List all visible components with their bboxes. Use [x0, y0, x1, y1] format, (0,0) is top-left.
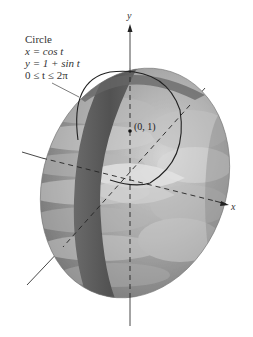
point-label: (0, 1) — [134, 121, 156, 132]
caption-title: Circle — [25, 33, 80, 45]
surface-body — [11, 43, 253, 322]
point-0-1-marker — [128, 129, 132, 133]
caption-leader-line — [52, 83, 79, 97]
y-axis-arrowhead — [128, 24, 133, 32]
caption-equation-y: y = 1 + sin t — [25, 57, 80, 69]
circle-caption: Circle x = cos t y = 1 + sin t 0 ≤ t ≤ 2… — [25, 33, 80, 81]
x-axis-left — [22, 152, 42, 158]
caption-equation-x: x = cos t — [25, 45, 80, 57]
caption-parameter-range: 0 ≤ t ≤ 2π — [25, 69, 80, 81]
y-axis-label: y — [127, 10, 131, 21]
x-axis-label: x — [231, 201, 235, 212]
